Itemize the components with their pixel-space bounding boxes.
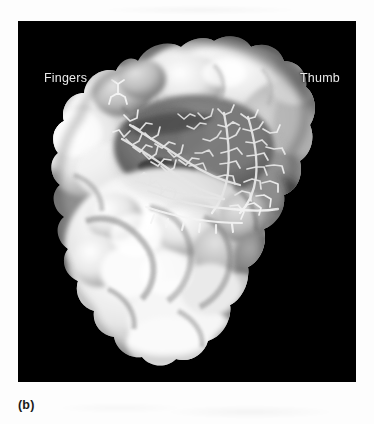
panel-caption: (b) (18, 398, 35, 412)
label-thumb: Thumb (300, 71, 340, 85)
figure-panel-b: Fingers Thumb (b) (0, 0, 374, 424)
label-fingers: Fingers (44, 71, 87, 85)
molecular-surface-render: Fingers Thumb (18, 21, 356, 382)
molecular-image-panel: Fingers Thumb (18, 21, 356, 382)
